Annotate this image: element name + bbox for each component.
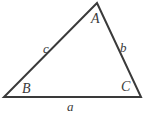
- vertex-label-b: B: [22, 82, 31, 96]
- side-label-c: c: [43, 42, 49, 55]
- triangle-diagram: A B C a b c: [0, 0, 147, 116]
- side-label-a: a: [67, 100, 74, 113]
- side-label-b: b: [120, 41, 127, 54]
- vertex-label-c: C: [121, 80, 130, 94]
- vertex-label-a: A: [91, 12, 100, 26]
